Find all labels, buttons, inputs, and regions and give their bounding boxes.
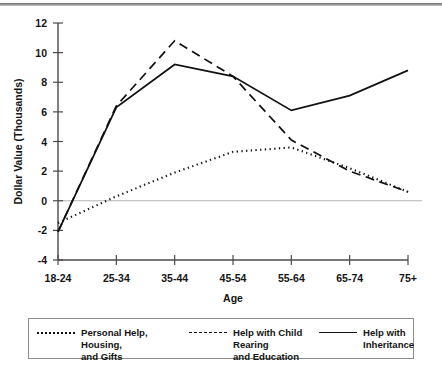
legend-swatch-solid	[319, 327, 357, 339]
y-tick-label: 2	[41, 165, 47, 177]
x-tick-label: 65-74	[336, 272, 363, 284]
chart-legend: Personal Help, Housing, and GiftsHelp wi…	[28, 318, 414, 359]
legend-entry: Personal Help, Housing, and Gifts	[37, 327, 187, 363]
series-line-dashed	[58, 41, 408, 232]
chart-series-lines	[58, 41, 408, 232]
y-axis-tick-labels: -4-2024681012	[35, 17, 47, 266]
y-axis-title: Dollar Value (Thousands)	[12, 78, 24, 204]
y-tick-label: 0	[41, 195, 47, 207]
x-tick-label: 55-64	[278, 272, 305, 284]
y-tick-label: -4	[38, 254, 47, 266]
y-tick-label: 6	[41, 106, 47, 118]
legend-label: Help with Child Rearing and Education	[233, 327, 317, 363]
x-tick-label: 18-24	[45, 272, 72, 284]
legend-label: Help with Inheritance	[363, 327, 419, 351]
legend-entry: Help with Child Rearing and Education	[189, 327, 317, 363]
legend-label: Personal Help, Housing, and Gifts	[81, 327, 187, 363]
x-tick-label: 45-54	[220, 272, 247, 284]
legend-swatch-dotted	[37, 327, 75, 339]
series-line-solid	[58, 64, 408, 231]
chart-figure: -4-2024681012 18-2425-3435-4445-5455-646…	[0, 0, 442, 374]
x-tick-label: 75+	[399, 272, 417, 284]
y-tick-label: 10	[35, 47, 47, 59]
x-tick-label: 35-44	[161, 272, 188, 284]
legend-swatch-dashed	[189, 327, 227, 339]
y-tick-label: 4	[41, 136, 47, 148]
legend-entry: Help with Inheritance	[319, 327, 419, 351]
y-tick-label: 8	[41, 76, 47, 88]
x-axis-title: Age	[223, 292, 243, 304]
y-tick-label: -2	[38, 224, 47, 236]
y-tick-label: 12	[35, 17, 47, 29]
series-line-dotted	[58, 147, 408, 223]
chart-axes	[53, 23, 408, 265]
x-axis-tick-labels: 18-2425-3435-4445-5455-6465-7475+	[45, 272, 417, 284]
x-tick-label: 25-34	[103, 272, 130, 284]
